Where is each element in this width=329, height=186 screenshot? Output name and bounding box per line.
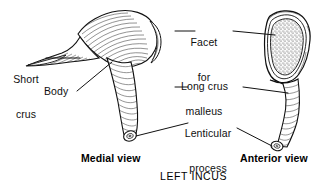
label-facet-line1: Facet xyxy=(178,37,230,49)
anterior-view-drawing xyxy=(265,11,311,152)
label-body: Body xyxy=(44,86,68,98)
leader-body xyxy=(77,62,112,91)
label-short-crus-line2: crus xyxy=(4,109,48,121)
view-label-anterior: Anterior view xyxy=(240,152,308,164)
label-short-crus-line1: Short xyxy=(4,74,48,86)
anatomical-figure-left-incus: Short crus Body Facet for malleus Long c… xyxy=(0,0,329,186)
label-short-crus: Short crus xyxy=(4,51,48,143)
figure-caption: LEFT INCUS xyxy=(160,170,227,182)
view-label-medial: Medial view xyxy=(81,152,140,164)
leader-lenticular-right xyxy=(237,128,272,146)
label-long-crus: Long crus xyxy=(181,81,228,93)
leader-long-crus-right xyxy=(243,87,288,93)
label-lenticular-line1: Lenticular xyxy=(179,128,237,140)
